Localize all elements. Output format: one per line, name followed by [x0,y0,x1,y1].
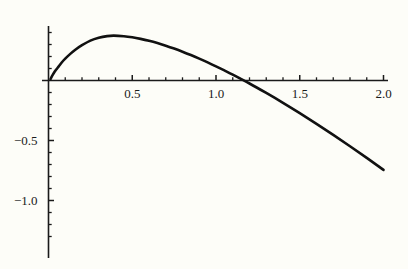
x-axis-tick-label: 0.5 [124,86,140,101]
plot-canvas: 0.51.01.52.0 −0.5−1.0 [0,0,408,269]
x-axis-tick-label: 2.0 [375,86,391,101]
x-axis-tick-label: 1.0 [208,86,224,101]
x-axis-tick-label: 1.5 [292,86,308,101]
plot-figure: 0.51.01.52.0 −0.5−1.0 [0,0,408,269]
plot-background [0,0,408,269]
y-axis-tick-label: −1.0 [14,193,38,208]
y-axis-tick-label: −0.5 [14,133,38,148]
